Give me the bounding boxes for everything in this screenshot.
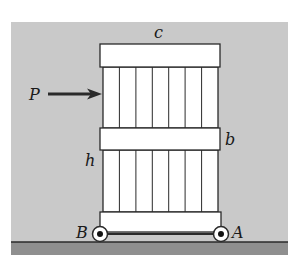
cart-platform: [100, 212, 221, 232]
ground: [11, 242, 288, 255]
label-b: b: [225, 130, 235, 149]
wheel-A: [214, 227, 229, 242]
lower-slat-section: [103, 150, 218, 212]
label-A: A: [230, 223, 244, 242]
wheel-B: [93, 227, 108, 242]
label-P: P: [28, 85, 40, 104]
label-B: B: [75, 223, 88, 242]
label-h: h: [85, 151, 95, 170]
label-c: c: [154, 23, 163, 42]
top-block: [100, 44, 220, 67]
crate-on-cart-diagram: P c b h B A: [0, 0, 307, 271]
middle-block: [100, 128, 220, 150]
upper-slat-section: [103, 67, 218, 128]
